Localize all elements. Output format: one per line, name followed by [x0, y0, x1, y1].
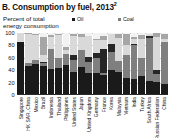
bar-segment-coal — [138, 58, 145, 76]
x-axis-label-slot: Malaysia — [115, 96, 123, 138]
bar-column[interactable] — [153, 33, 160, 95]
bar-segment-coal — [93, 58, 100, 74]
bar-column[interactable] — [25, 33, 32, 95]
x-axis-tick-label: Mexico — [33, 97, 38, 113]
bar-column[interactable] — [17, 33, 24, 95]
bar-column[interactable] — [131, 33, 138, 95]
x-axis-label-slot: Germany — [93, 96, 101, 138]
x-axis-tick-label: France — [101, 97, 106, 112]
x-axis-label-slot: Mexico — [32, 96, 40, 138]
bar-segment-oil — [131, 79, 138, 95]
x-axis-tick-labels: SingaporeHK SAR, ChinaMexicoBrazilIndone… — [17, 96, 168, 138]
bar-segment-oil — [85, 73, 92, 95]
bar-segment-coal — [108, 52, 115, 71]
bar-column[interactable] — [78, 33, 85, 95]
bar-column[interactable] — [40, 33, 47, 95]
bar-segment-natural-gas — [153, 37, 160, 70]
legend-label: Oil — [77, 16, 83, 22]
bar-segment-coal — [48, 49, 55, 69]
bar-column[interactable] — [85, 33, 92, 95]
bar-column[interactable] — [123, 33, 130, 95]
y-axis-tick-label: 100 — [5, 30, 14, 36]
bar-segment-coal — [63, 54, 70, 65]
bar-segment-coal — [153, 74, 160, 82]
x-axis-label-slot: Brazil — [40, 96, 48, 138]
y-axis-caption: Percent of total energy consumption — [3, 15, 61, 30]
bar-column[interactable] — [48, 33, 55, 95]
bar-segment-oil — [100, 75, 107, 95]
bar-segment-natural-gas — [55, 35, 62, 58]
bar-segment-nuclear-energy — [108, 44, 115, 52]
bar-segment-natural-gas — [115, 38, 122, 61]
bar-segment-natural-gas — [78, 37, 85, 51]
x-axis-tick-label: Japan — [79, 97, 84, 110]
bar-column[interactable] — [63, 33, 70, 95]
bar-segment-coal — [85, 62, 92, 73]
y-axis-tick-label: 80 — [8, 42, 14, 48]
bar-column[interactable] — [70, 33, 77, 95]
x-axis-label-slot: Singapore — [17, 96, 25, 138]
x-axis-tick-label: United States — [71, 97, 76, 126]
bar-segment-coal — [146, 38, 153, 81]
x-axis-tick-label: Brazil — [41, 97, 46, 109]
bar-column[interactable] — [32, 33, 39, 95]
bar-segment-oil — [48, 69, 55, 95]
bar-segment-oil — [93, 73, 100, 95]
legend-item-oil[interactable]: Oil — [72, 16, 118, 23]
bar-segment-coal — [55, 58, 62, 69]
x-axis-label-slot: India — [130, 96, 138, 138]
bar-segment-oil — [63, 65, 70, 95]
x-axis-label-slot: United States — [70, 96, 78, 138]
bar-segment-natural-gas — [40, 55, 47, 62]
chart-container: B. Consumption by fuel, 20132 Percent of… — [0, 0, 170, 138]
x-axis-label-slot: Russian Federation — [153, 96, 161, 138]
x-axis-label-slot: Indonesia — [47, 96, 55, 138]
bar-segment-oil — [146, 81, 153, 95]
x-axis-tick-label: Russian Federation — [154, 97, 159, 138]
x-axis-tick-label: Turkey — [139, 97, 144, 112]
bar-column[interactable] — [55, 33, 62, 95]
bar-column[interactable] — [100, 33, 107, 95]
legend-label: Coal — [123, 16, 134, 22]
bar-column[interactable] — [115, 33, 122, 95]
bar-segment-natural-gas — [108, 34, 115, 44]
y-axis-tick-label: 20 — [8, 80, 14, 86]
chart-title-text: B. Consumption by fuel, 2013 — [2, 3, 114, 12]
bar-segment-oil — [25, 66, 32, 95]
x-axis-tick-label: Indonesia — [48, 97, 53, 118]
bar-column[interactable] — [161, 33, 168, 95]
chart-title: B. Consumption by fuel, 20132 — [2, 1, 117, 12]
x-axis-tick-label: United Kingdom — [86, 97, 91, 132]
x-axis-tick-label: China — [162, 97, 167, 110]
bar-segment-natural-gas — [93, 40, 100, 54]
legend-item-coal[interactable]: Coal — [118, 16, 170, 23]
bar-column[interactable] — [108, 33, 115, 95]
bar-series-group — [17, 33, 168, 95]
bar-segment-coal — [123, 55, 130, 77]
y-axis-tick-label: 60 — [8, 55, 14, 61]
bar-segment-natural-gas — [123, 45, 130, 56]
x-axis-tick-label: Thailand — [56, 97, 61, 116]
bar-segment-coal — [78, 50, 85, 67]
x-axis-tick-label: Vietnam — [124, 97, 129, 115]
x-axis-label-slot: Turkey — [138, 96, 146, 138]
bar-segment-renewables — [63, 33, 70, 47]
x-axis-label-slot: Japan — [77, 96, 85, 138]
y-axis-tick-label: 0 — [11, 92, 14, 98]
bar-segment-natural-gas — [17, 33, 24, 42]
bar-segment-natural-gas — [25, 34, 32, 63]
x-axis-label-slot: France — [100, 96, 108, 138]
x-axis-label-slot: United Kingdom — [85, 96, 93, 138]
bar-column[interactable] — [138, 33, 145, 95]
bar-segment-coal — [115, 61, 122, 72]
bar-segment-coal — [131, 45, 138, 79]
chart-title-footnote-marker: 2 — [114, 1, 117, 7]
bar-column[interactable] — [146, 33, 153, 95]
bar-segment-natural-gas — [48, 37, 55, 49]
x-axis-tick-label: Germany — [94, 97, 99, 117]
x-axis-label-slot: China — [160, 96, 168, 138]
bar-column[interactable] — [93, 33, 100, 95]
bar-segment-oil — [138, 76, 145, 95]
x-axis-label-slot: Philippines — [62, 96, 70, 138]
x-axis-label-slot: Thailand — [55, 96, 63, 138]
